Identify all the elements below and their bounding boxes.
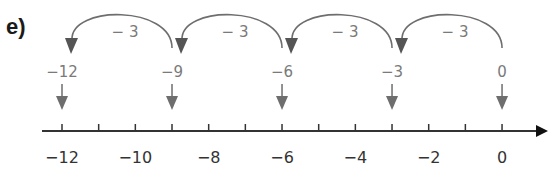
point-label: −12 (46, 63, 78, 81)
down-arrow-icon (496, 96, 508, 110)
down-arrow-icon (166, 96, 178, 110)
axis-label: −6 (270, 148, 294, 167)
point-label: −6 (271, 63, 293, 81)
jump-label: − 3 (112, 23, 139, 41)
axis-label: −12 (45, 148, 79, 167)
jump-arrowhead-icon (175, 38, 188, 54)
down-arrow-icon (386, 96, 398, 110)
part-label: e) (6, 14, 26, 40)
axis-label: −8 (197, 148, 221, 167)
point-label: −3 (381, 63, 403, 81)
point-label: −9 (161, 63, 183, 81)
axis-label: −4 (344, 148, 368, 167)
number-line-svg: −12−10−8−6−4−200−3−6−9−12− 3− 3− 3− 3 (0, 0, 548, 181)
axis-label: −10 (118, 148, 152, 167)
axis-arrow-icon (536, 125, 548, 137)
jump-arrowhead-icon (285, 38, 298, 54)
down-arrow-icon (276, 96, 288, 110)
number-line-diagram: e) −12−10−8−6−4−200−3−6−9−12− 3− 3− 3− 3 (0, 0, 548, 181)
axis-label: 0 (497, 148, 507, 167)
axis-label: −2 (417, 148, 441, 167)
point-label: 0 (497, 63, 507, 81)
jump-arrowhead-icon (65, 38, 78, 54)
jump-arrowhead-icon (395, 38, 408, 54)
down-arrow-icon (56, 96, 68, 110)
jump-label: − 3 (442, 23, 469, 41)
jump-label: − 3 (332, 23, 359, 41)
jump-label: − 3 (222, 23, 249, 41)
